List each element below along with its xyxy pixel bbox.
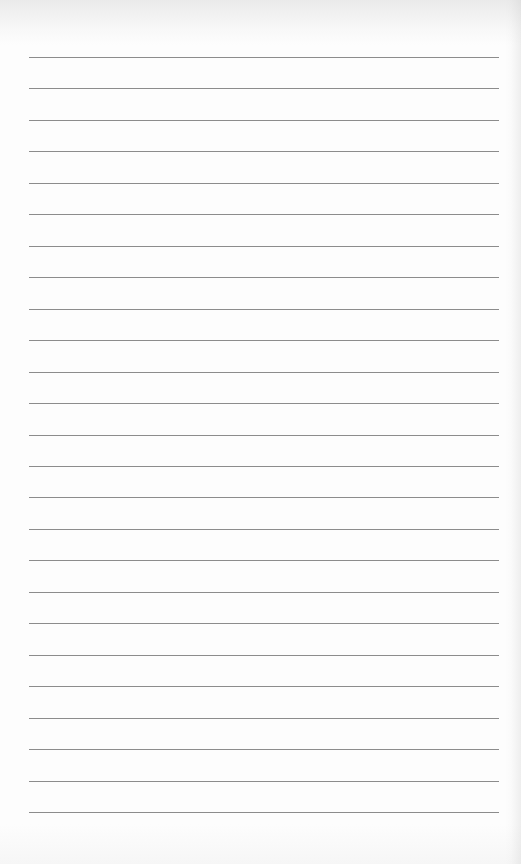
ruled-line xyxy=(29,340,499,341)
ruled-line xyxy=(29,497,499,498)
ruled-line xyxy=(29,623,499,624)
ruled-line xyxy=(29,246,499,247)
lined-paper-page xyxy=(0,0,521,864)
ruled-line xyxy=(29,655,499,656)
ruled-line xyxy=(29,183,499,184)
ruled-line xyxy=(29,718,499,719)
ruled-line xyxy=(29,749,499,750)
ruled-line xyxy=(29,57,499,58)
ruled-line xyxy=(29,120,499,121)
ruled-line xyxy=(29,403,499,404)
ruled-line xyxy=(29,812,499,813)
ruled-line xyxy=(29,781,499,782)
ruled-line xyxy=(29,592,499,593)
ruled-line xyxy=(29,372,499,373)
ruled-line xyxy=(29,435,499,436)
ruled-line xyxy=(29,309,499,310)
ruled-line xyxy=(29,277,499,278)
ruled-line xyxy=(29,466,499,467)
ruled-line xyxy=(29,214,499,215)
ruled-line xyxy=(29,529,499,530)
ruled-line xyxy=(29,560,499,561)
ruled-line xyxy=(29,151,499,152)
ruled-line xyxy=(29,88,499,89)
ruled-line xyxy=(29,686,499,687)
